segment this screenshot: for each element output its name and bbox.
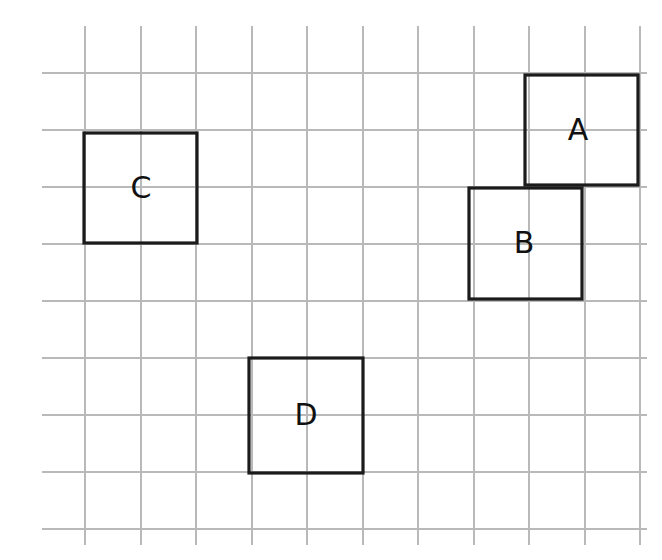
square-c-label: C — [131, 170, 152, 205]
grid-horizontal-lines — [42, 73, 647, 529]
grid-figure: ABCD — [0, 0, 662, 560]
square-b-label: B — [514, 225, 535, 260]
squares-layer: ABCD — [84, 75, 638, 473]
square-d-label: D — [294, 397, 317, 432]
square-a-label: A — [568, 112, 589, 147]
figure-canvas: ABCD — [0, 0, 662, 560]
